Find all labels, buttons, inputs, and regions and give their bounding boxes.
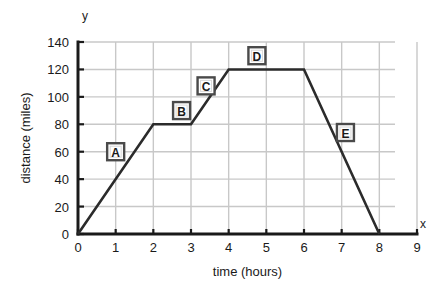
x-tick-label: 1: [112, 240, 119, 255]
chart-canvas: 0123456789 020406080100120140 ABCDE x y …: [0, 0, 433, 288]
segment-label-text: A: [111, 146, 120, 160]
x-tick-label: 6: [300, 240, 307, 255]
y-tick-label: 120: [47, 62, 69, 77]
segment-label-b: B: [173, 102, 190, 119]
segment-label-text: C: [202, 80, 211, 94]
x-tick-label: 5: [263, 240, 270, 255]
x-tick-label: 0: [74, 240, 81, 255]
x-tick-label: 3: [187, 240, 194, 255]
x-tick-label: 2: [150, 240, 157, 255]
y-tick-label: 100: [47, 90, 69, 105]
segment-label-a: A: [107, 143, 124, 160]
x-axis-name: x: [420, 217, 426, 231]
y-tick-label: 60: [55, 145, 69, 160]
y-tick-label: 20: [55, 200, 69, 215]
segment-label-text: E: [341, 127, 349, 141]
y-tick-label: 40: [55, 172, 69, 187]
segment-label-e: E: [337, 124, 354, 141]
x-tick-label: 7: [338, 240, 345, 255]
y-tick-label: 80: [55, 117, 69, 132]
x-tick-label: 9: [413, 240, 420, 255]
y-tick-label: 0: [62, 227, 69, 242]
segment-label-c: C: [198, 77, 215, 94]
y-tick-label: 140: [47, 35, 69, 50]
distance-time-chart: 0123456789 020406080100120140 ABCDE x y …: [0, 0, 433, 288]
x-axis-title: time (hours): [213, 264, 282, 279]
x-tick-label: 8: [376, 240, 383, 255]
segment-label-text: D: [253, 50, 262, 64]
segment-label-text: B: [177, 105, 186, 119]
y-axis-title: distance (miles): [18, 92, 33, 183]
segment-label-d: D: [248, 47, 265, 64]
x-tick-label: 4: [225, 240, 232, 255]
y-axis-name: y: [82, 9, 88, 23]
